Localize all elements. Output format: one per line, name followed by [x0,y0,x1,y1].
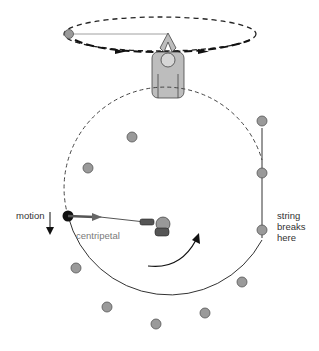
person-icon [152,33,184,98]
here-label: here [277,232,296,243]
rotation-arrow [148,240,196,266]
breaks-label: breaks [277,221,306,232]
ball [65,30,74,39]
centripetal-label: centripetal [76,230,120,241]
centripetal-force-arrow [68,216,95,217]
arrow-down-icon [46,227,54,235]
motion-label: motion [16,210,45,221]
top-scene [64,17,256,98]
string-label: string [277,210,300,221]
person-top-view-icon [140,217,170,236]
centripetal-force-diagram [0,0,319,351]
string-line [100,217,145,222]
arrow-icon [192,233,200,244]
circular-path [64,87,262,295]
